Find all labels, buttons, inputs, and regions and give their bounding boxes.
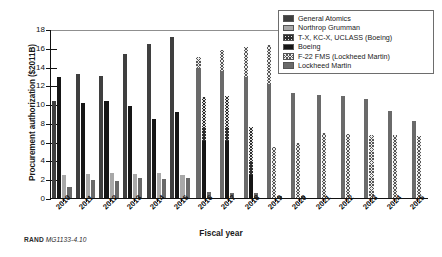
bar[interactable] (128, 106, 132, 198)
bar-segment (81, 103, 85, 198)
bar[interactable] (412, 121, 416, 198)
y-tick (46, 199, 51, 200)
bar[interactable] (322, 133, 326, 198)
bar-segment (346, 134, 350, 198)
bar[interactable] (369, 135, 373, 198)
bar[interactable] (225, 96, 229, 198)
bar[interactable] (57, 77, 61, 198)
bar-segment (196, 68, 200, 198)
bar-segment (317, 95, 321, 198)
bar[interactable] (76, 74, 80, 198)
legend-label: General Atomics (298, 15, 351, 22)
bar-group (216, 30, 240, 198)
bar-segment (249, 127, 253, 174)
bar[interactable] (346, 134, 350, 198)
legend-item[interactable]: General Atomics (283, 14, 429, 23)
footer-doc-id: MG1133-4.10 (46, 236, 87, 243)
bar[interactable] (296, 143, 300, 198)
bar-segment (170, 37, 174, 198)
bar[interactable] (91, 180, 95, 198)
y-tick-label: 6 (25, 139, 45, 147)
legend-swatch-icon (283, 25, 294, 32)
bar-segment (291, 93, 295, 198)
legend-swatch-icon (283, 34, 294, 41)
bar-segment (202, 97, 206, 141)
bar[interactable] (388, 111, 392, 198)
bar-segment (393, 135, 397, 198)
bar[interactable] (220, 50, 224, 198)
bar-group (193, 30, 217, 198)
bar[interactable] (417, 136, 421, 198)
bar-segment (417, 136, 421, 198)
legend-item[interactable]: Northrop Grumman (283, 23, 429, 32)
bar-segment (128, 106, 132, 198)
bar[interactable] (152, 119, 156, 198)
legend-item[interactable]: T-X, KC-X, UCLASS (Boeing) (283, 33, 429, 42)
bar-segment (220, 71, 224, 198)
bar-segment (147, 44, 151, 198)
legend-swatch-icon (283, 53, 294, 60)
bar[interactable] (291, 93, 295, 198)
bar[interactable] (104, 101, 108, 198)
bar[interactable] (196, 57, 200, 198)
bar-segment (202, 141, 206, 198)
bar[interactable] (317, 95, 321, 198)
bar[interactable] (364, 99, 368, 198)
bar[interactable] (147, 44, 151, 198)
bar[interactable] (170, 37, 174, 198)
y-tick-label: 12 (25, 82, 45, 90)
bar-segment (244, 77, 248, 198)
bar-segment (123, 54, 127, 198)
y-tick-label: 10 (25, 101, 45, 109)
y-tick-label: 4 (25, 157, 45, 165)
bar-segment (52, 101, 56, 198)
bar-group (98, 30, 122, 198)
bar[interactable] (81, 103, 85, 198)
bar-group (51, 30, 75, 198)
legend-label: F-22 FMS (Lockheed Martin) (298, 53, 390, 60)
legend-swatch-icon (283, 62, 294, 69)
y-tick-label: 2 (25, 176, 45, 184)
y-tick-label: 18 (25, 26, 45, 34)
bar[interactable] (52, 101, 56, 198)
bar[interactable] (267, 45, 271, 198)
bar-segment (267, 84, 271, 198)
legend-label: Northrop Grumman (298, 24, 360, 31)
bar[interactable] (244, 47, 248, 198)
bar[interactable] (249, 127, 253, 198)
bar[interactable] (123, 54, 127, 198)
bar-group (122, 30, 146, 198)
bar-segment (388, 111, 392, 198)
bar[interactable] (202, 97, 206, 198)
legend-item[interactable]: Lockheed Martin (283, 61, 429, 70)
y-tick-label: 16 (25, 45, 45, 53)
bar-segment (267, 45, 271, 83)
bar-segment (196, 57, 200, 68)
y-tick-label: 14 (25, 64, 45, 72)
y-tick-label: 8 (25, 120, 45, 128)
legend-item[interactable]: Boeing (283, 42, 429, 51)
bar[interactable] (393, 135, 397, 198)
bar[interactable] (99, 76, 103, 198)
legend-item[interactable]: F-22 FMS (Lockheed Martin) (283, 52, 429, 61)
bar-segment (272, 147, 276, 198)
bar-segment (152, 119, 156, 198)
bar-segment (220, 50, 224, 71)
legend-label: T-X, KC-X, UCLASS (Boeing) (298, 34, 392, 41)
bar[interactable] (341, 96, 345, 198)
figure-footer: RAND MG1133-4.10 (24, 236, 87, 243)
chart-legend: General AtomicsNorthrop GrummanT-X, KC-X… (278, 10, 434, 74)
bar-group (169, 30, 193, 198)
bar-segment (341, 96, 345, 198)
bar-segment (76, 74, 80, 198)
bar[interactable] (272, 147, 276, 198)
bar-segment (175, 112, 179, 198)
bar-segment (244, 47, 248, 77)
bar[interactable] (175, 112, 179, 198)
legend-label: Boeing (298, 43, 320, 50)
bar-segment (104, 101, 108, 198)
legend-swatch-icon (283, 15, 294, 22)
bar-segment (57, 77, 61, 198)
bar-segment (322, 133, 326, 198)
bar-segment (369, 135, 373, 198)
